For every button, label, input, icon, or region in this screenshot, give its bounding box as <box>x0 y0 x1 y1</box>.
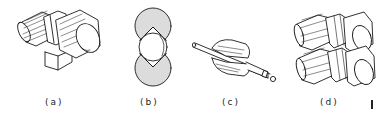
label-a: (a) <box>45 97 64 107</box>
edge-mark <box>371 100 373 109</box>
split-die-on-rod-icon <box>192 40 275 82</box>
stacked-roller-pair-icon <box>292 12 377 87</box>
roll-pass-end-view-icon <box>135 8 171 86</box>
label-c: (c) <box>222 97 240 107</box>
roller-on-block-icon <box>15 10 104 70</box>
label-d: (d) <box>320 97 339 107</box>
diagram-canvas <box>0 0 379 126</box>
label-b: (b) <box>140 97 159 107</box>
